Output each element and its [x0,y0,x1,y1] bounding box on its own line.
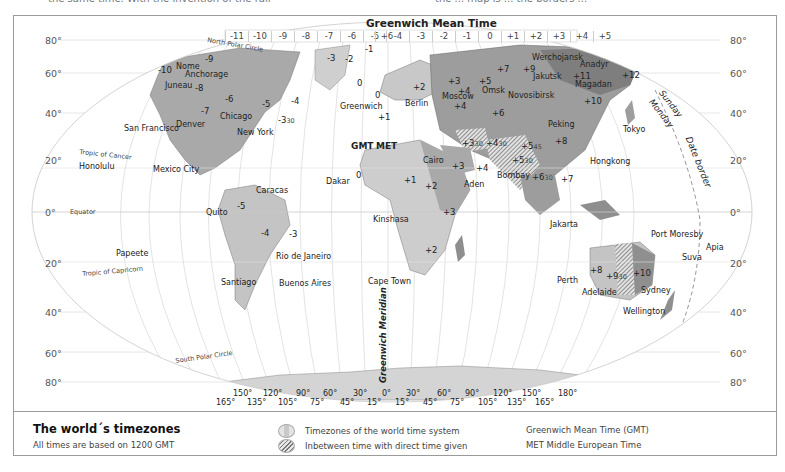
zone-label: 0 [356,170,361,180]
city-sydney: Sydney [641,286,671,295]
lat-label: 40° [730,108,747,119]
tz-offset: -2 [432,31,455,42]
zone-label: +1 [378,112,391,122]
city-omsk: Omsk [482,86,505,95]
city-juneau: Juneau [165,81,192,90]
city-suva: Suva [682,253,702,262]
lon-label: 105° [478,398,497,407]
zone-label: +630 [532,172,553,182]
legend-item-label: MET Middle European Time [526,440,641,450]
legend-title: The world´s timezones [33,422,180,436]
tz-offset: +2 [524,31,547,42]
lon-label: 135° [247,398,266,407]
city-anchorage: Anchorage [185,70,228,79]
city-magadan: Magadan [575,80,612,89]
tz-offset: +3 [547,31,570,42]
zone-label: -3 [289,229,297,239]
lat-label: 20° [45,258,62,269]
tz-offset: -3 [409,31,432,42]
tz-offset: -8 [294,31,317,42]
zone-label: +11 [573,71,591,81]
zone-label: -7 [201,106,209,116]
lon-label: 75° [450,398,464,407]
city-buenos-aires: Buenos Aires [279,279,331,288]
legend-item-timezones: Timezones of the world time system [278,424,460,438]
hatch-swatch-icon [278,439,295,453]
zone-label: +4 [454,101,467,111]
world-map-graphic [0,0,785,412]
zone-label: +9 [523,64,536,74]
zone-label: +7 [497,64,510,74]
zone-label: +5 [479,76,492,86]
zone-label: +10 [633,268,651,278]
city-san-francisco: San Francisco [124,124,179,133]
equator-label: Equator [70,208,96,216]
lat-label: 40° [730,307,747,318]
zone-label: +930 [606,271,627,281]
zone-label: +430 [486,138,507,148]
zone-label: +530 [512,155,533,165]
lon-label: 150° [233,389,252,398]
legend-item-label: Timezones of the world time system [305,426,460,436]
lat-label: 60° [730,348,747,359]
legend-item-gmt: Greenwich Mean Time (GMT) [526,425,649,435]
lon-label: 90° [465,389,479,398]
city-jakutsk: Jakutsk [533,72,562,81]
lon-label: 15° [395,398,409,407]
lat-label: 20° [730,258,747,269]
lon-label: 15° [367,398,381,407]
city-rio-de-janeiro: Rio de Janeiro [276,252,331,261]
zone-label: -4 [261,228,269,238]
city-quito: Quito [206,208,228,217]
lon-label: 30° [353,389,367,398]
zone-label: +3 [448,76,461,86]
zone-label: -6 [225,94,233,104]
city-hongkong: Hongkong [590,157,630,166]
zone-label: +2 [425,181,438,191]
lon-label: 45° [340,398,354,407]
city-port-moresby: Port Moresby [651,230,703,239]
zone-label: +8 [590,265,603,275]
tz-offset: 0 [478,31,501,42]
city-perth: Perth [557,276,578,285]
tz-offset: -10 [248,31,271,42]
zone-label: +330 [462,138,483,148]
zone-label: +8 [555,136,568,146]
city-honolulu: Honolulu [79,162,114,171]
lat-label: 80° [45,35,62,46]
city-berlin: Berlin [405,99,428,108]
lon-label: 60° [437,389,451,398]
zone-label-minutes: 30 [499,140,507,148]
greenwich-meridian-label: Greenwich Meridian [378,287,388,383]
tz-offset: +1 [501,31,524,42]
city-greenwich: Greenwich [340,102,382,111]
zone-label: -4 [291,96,299,106]
lat-label: 80° [730,35,747,46]
zone-label: 0 [375,90,380,100]
zone-label: -330 [278,115,295,125]
tz-offset: -7 [317,31,340,42]
zone-label: -10 [158,65,172,75]
tz-offset: -1 [455,31,478,42]
city-new-york: New York [237,128,274,137]
lon-label: 120° [263,389,282,398]
lat-label: 20° [730,155,747,166]
lat-label: 0° [45,207,56,218]
lat-label: 40° [45,307,62,318]
zone-label-minutes: 30 [619,273,627,281]
lon-label: 165° [535,398,554,407]
city-cape-town: Cape Town [368,277,411,286]
zone-label: +6 [492,108,505,118]
zone-label: +4 [476,163,489,173]
zone-label-minutes: 30 [545,174,553,182]
city-jakarta: Jakarta [550,220,578,229]
zone-label: +3 [443,207,456,217]
lon-label: 45° [423,398,437,407]
zone-label: -5 [262,99,270,109]
zone-label: -8 [195,83,203,93]
city-papeete: Papeete [116,249,148,258]
zone-label: -5 [237,201,245,211]
zone-label: +2 [413,82,426,92]
city-werchojansk: Werchojansk [532,53,583,62]
tz-offset: +6 [375,31,398,42]
